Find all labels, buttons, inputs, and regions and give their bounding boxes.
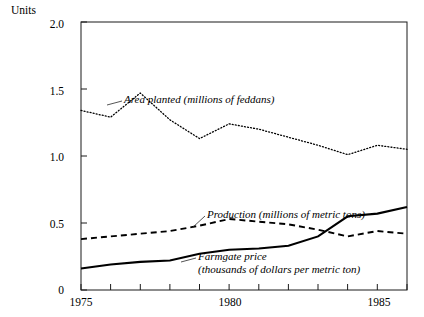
annotation-leader-lines xyxy=(107,101,205,262)
chart-container: Units 2.0 1.5 1.0 0.5 0 1975 1980 1985 xyxy=(0,0,424,317)
annotation-area-planted-text: Area planted (millions of feddans) xyxy=(124,93,275,105)
annotation-farmgate-price: Farmgate price (thousands of dollars per… xyxy=(198,250,360,276)
annotation-production: Production (millions of metric tons) xyxy=(207,208,365,221)
y-axis-ticks xyxy=(81,22,87,290)
annotation-area-planted: Area planted (millions of feddans) xyxy=(124,93,275,106)
annotation-farmgate-price-line1: Farmgate price xyxy=(198,250,267,262)
x-axis-ticks xyxy=(81,284,407,290)
series-line-production xyxy=(81,219,407,239)
annotation-farmgate-price-line2: (thousands of dollars per metric ton) xyxy=(198,263,360,276)
annotation-production-text: Production (millions of metric tons) xyxy=(207,208,365,220)
